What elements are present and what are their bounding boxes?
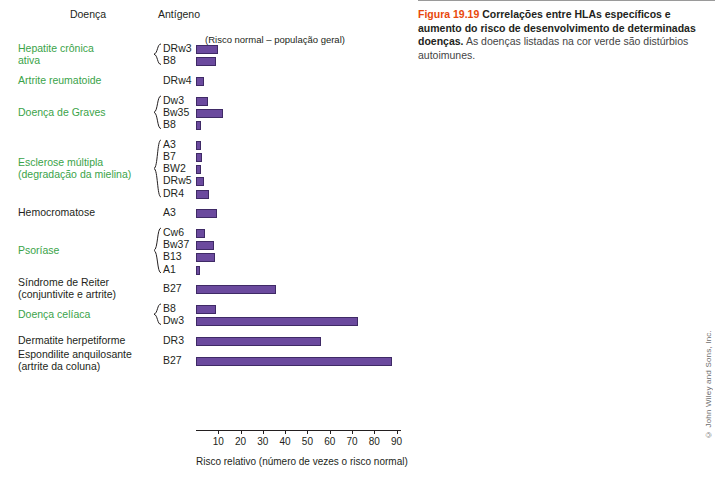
antigen-label: BW2 (163, 162, 186, 174)
x-tick-label: 50 (302, 436, 313, 447)
x-tick (307, 430, 308, 434)
brace (153, 139, 162, 198)
bar (196, 77, 204, 86)
x-tick (374, 430, 375, 434)
bar (196, 285, 276, 294)
brace (153, 95, 162, 130)
bar (196, 229, 205, 238)
figure-caption: Figura 19.19 Correlações entre HLAs espe… (418, 8, 696, 62)
antigen-label: B27 (163, 282, 182, 294)
bar (196, 209, 217, 218)
bar (196, 241, 214, 250)
disease-label: Dermatite herpetiforme (18, 334, 150, 346)
antigen-label: B7 (163, 150, 176, 162)
antigen-label: B8 (163, 54, 176, 66)
bar (196, 357, 392, 366)
x-tick-label: 70 (346, 436, 357, 447)
bar (196, 57, 216, 66)
bar (196, 177, 204, 186)
antigen-label: B13 (163, 250, 182, 262)
bar (196, 109, 223, 118)
antigen-label: B8 (163, 302, 176, 314)
antigen-label: DR4 (163, 187, 184, 199)
column-header-disease: Doença (28, 8, 148, 20)
antigen-label: Bw35 (163, 106, 189, 118)
bar (196, 337, 321, 346)
x-tick (263, 430, 264, 434)
antigen-label: B27 (163, 354, 182, 366)
antigen-label: A3 (163, 138, 176, 150)
brace (153, 43, 162, 65)
x-tick (330, 430, 331, 434)
bar (196, 190, 209, 199)
antigen-label: Dw3 (163, 94, 184, 106)
antigen-label: DRw3 (163, 42, 192, 54)
disease-label: Artrite reumatoide (18, 74, 150, 86)
disease-label: Espondilite anquilosante (artrite da col… (18, 348, 150, 372)
bar (196, 317, 358, 326)
antigen-label: Bw37 (163, 238, 189, 250)
x-tick-label: 80 (369, 436, 380, 447)
x-tick-label: 90 (391, 436, 402, 447)
antigen-label: DRw4 (163, 74, 192, 86)
x-tick-label: 30 (257, 436, 268, 447)
disease-label: Psoríase (18, 244, 150, 256)
brace (153, 227, 162, 274)
disease-label: Doença celíaca (18, 308, 150, 320)
antigen-label: Cw6 (163, 226, 184, 238)
bar (196, 305, 216, 314)
x-tick-label: 10 (213, 436, 224, 447)
x-tick-label: 60 (324, 436, 335, 447)
x-tick (218, 430, 219, 434)
brace (153, 303, 162, 325)
figure-19-19: Doença Antígeno (Risco normal – populaçã… (0, 0, 715, 485)
x-tick (241, 430, 242, 434)
antigen-label: B8 (163, 118, 176, 130)
disease-label: Doença de Graves (18, 106, 150, 118)
bar (196, 253, 215, 262)
bar-plot-area (196, 44, 396, 430)
bar (196, 266, 200, 275)
bar (196, 45, 218, 54)
bar (196, 121, 201, 130)
bar (196, 141, 201, 150)
figure-number: Figura 19.19 (418, 8, 479, 20)
x-tick-label: 20 (235, 436, 246, 447)
antigen-label: DR3 (163, 334, 184, 346)
x-tick (285, 430, 286, 434)
antigen-label: DRw5 (163, 174, 192, 186)
x-axis-line (196, 430, 401, 431)
antigen-label: A3 (163, 206, 176, 218)
disease-label: Hepatite crônica ativa (18, 42, 150, 66)
x-tick (397, 430, 398, 434)
bar (196, 97, 208, 106)
column-header-antigen: Antígeno (158, 8, 200, 20)
x-tick (352, 430, 353, 434)
x-axis-label: Risco relativo (número de vezes o risco … (196, 456, 596, 467)
bar (196, 153, 202, 162)
caption-top-rule (418, 0, 715, 1)
copyright-credit: © John Wiley and Sons, Inc. (704, 330, 713, 439)
antigen-label: A1 (163, 263, 176, 275)
bar (196, 165, 201, 174)
x-tick-label: 40 (280, 436, 291, 447)
disease-label: Hemocromatose (18, 206, 150, 218)
antigen-label: Dw3 (163, 314, 184, 326)
disease-label: Síndrome de Reiter (conjuntivite e artri… (18, 276, 150, 300)
disease-label: Esclerose múltipla (degradação da mielin… (18, 156, 150, 180)
